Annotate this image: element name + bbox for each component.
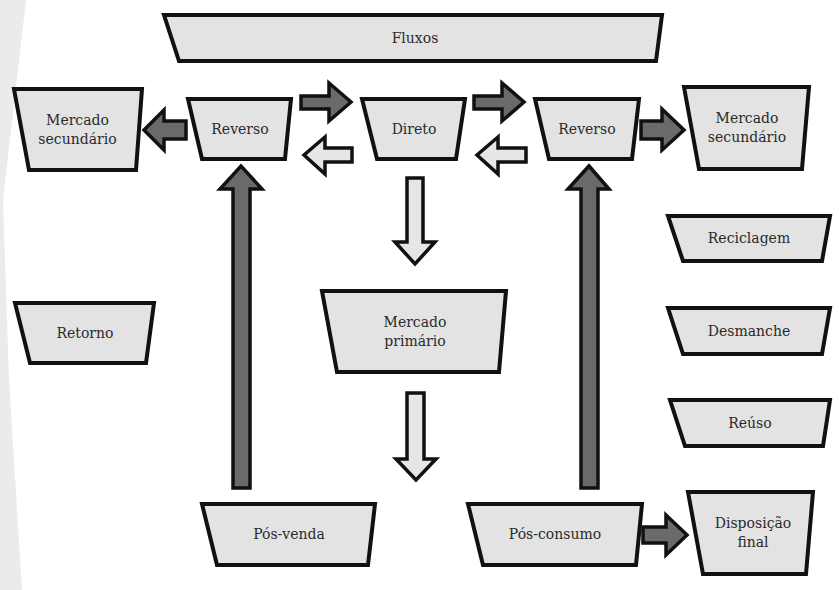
- arrow-down-light-icon: [396, 393, 436, 480]
- fluxos-box: [164, 15, 662, 61]
- arrow-down-light-icon: [395, 178, 435, 264]
- reciclagem-box: [668, 216, 830, 261]
- arrow-left-light-icon: [477, 137, 526, 174]
- arrow-left-light-icon: [304, 137, 352, 174]
- reverso-right-box: [535, 99, 639, 159]
- mercado-secundario-right-box: [684, 87, 809, 169]
- arrow-right-dark-icon: [474, 83, 524, 121]
- pos-venda-box: [202, 504, 375, 565]
- direto-box: [362, 99, 465, 159]
- mercado-secundario-left-box: [14, 89, 142, 170]
- retorno-box: [15, 303, 154, 363]
- arrow-right-dark-icon: [301, 83, 351, 121]
- reuso-box: [670, 400, 830, 446]
- arrow-up-dark-icon: [220, 166, 262, 488]
- diagram-shapes: [0, 0, 839, 590]
- mercado-primario-box: [322, 291, 506, 372]
- arrow-right-dark-icon: [641, 109, 684, 150]
- arrow-up-dark-icon: [568, 166, 609, 488]
- logistics-flow-diagram: Fluxos Mercado secundário Reverso Direto…: [0, 0, 839, 590]
- desmanche-box: [668, 308, 830, 354]
- arrow-left-dark-icon: [144, 110, 186, 150]
- arrow-right-dark-icon: [643, 515, 687, 555]
- reverso-left-box: [188, 99, 291, 159]
- pos-consumo-box: [468, 504, 642, 565]
- disposicao-final-box: [688, 492, 813, 574]
